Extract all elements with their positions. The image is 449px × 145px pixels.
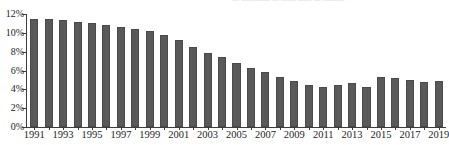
bar-slot: [99, 14, 113, 127]
y-axis-tick-label: 6%: [0, 66, 24, 76]
y-axis-tick: [22, 71, 26, 72]
x-axis-tick-label: 1999: [139, 129, 160, 141]
bar-slot: [143, 14, 157, 127]
bar-slot: [27, 14, 41, 127]
x-axis-tick-label: 1995: [82, 129, 103, 141]
x-axis-tick-label: 1997: [110, 129, 131, 141]
bar[interactable]: [88, 23, 96, 127]
bar[interactable]: [146, 31, 154, 127]
x-axis-tick-label: 2003: [197, 129, 218, 141]
bar[interactable]: [290, 81, 298, 127]
bar[interactable]: [175, 40, 183, 127]
y-axis-tick-label: 12%: [0, 9, 24, 19]
y-axis-tick-label: 8%: [0, 47, 24, 57]
bar-slot: [316, 14, 330, 127]
bar-slot: [417, 14, 431, 127]
bar-slot: [114, 14, 128, 127]
y-axis-tick: [22, 108, 26, 109]
bar-slot: [200, 14, 214, 127]
bar[interactable]: [30, 19, 38, 127]
bar-slot: [186, 14, 200, 127]
bar[interactable]: [377, 77, 385, 127]
cropped-top-caption-text: — ———— — —— —— — ———: [232, 0, 446, 4]
bar-slot: [157, 14, 171, 127]
bar[interactable]: [232, 63, 240, 127]
x-axis-tick-label: 2015: [370, 129, 391, 141]
bar[interactable]: [247, 68, 255, 127]
bar-slot: [432, 14, 446, 127]
bar[interactable]: [74, 22, 82, 127]
bar[interactable]: [348, 83, 356, 127]
x-axis-tick-label: 2007: [255, 129, 276, 141]
bar[interactable]: [102, 25, 110, 127]
x-axis-tick-label: 2019: [428, 129, 449, 141]
x-axis-tick-label: 2011: [313, 129, 334, 141]
bar-series: [27, 14, 446, 127]
y-axis-tick: [22, 89, 26, 90]
bar-slot: [403, 14, 417, 127]
x-axis-tick-label: 1993: [53, 129, 74, 141]
bar[interactable]: [59, 20, 67, 127]
y-axis-tick: [22, 52, 26, 53]
bar-slot: [345, 14, 359, 127]
bar-slot: [273, 14, 287, 127]
bar-slot: [171, 14, 185, 127]
x-axis-tick-label: 1991: [24, 129, 45, 141]
bar[interactable]: [420, 82, 428, 127]
y-axis-tick-label: 0%: [0, 122, 24, 132]
bar-slot: [56, 14, 70, 127]
x-axis-tick-label: 2005: [226, 129, 247, 141]
y-axis-tick: [22, 127, 26, 128]
x-axis-tick-label: 2001: [168, 129, 189, 141]
bar[interactable]: [435, 81, 443, 127]
bar-slot: [388, 14, 402, 127]
bar[interactable]: [305, 85, 313, 127]
y-axis-tick-label: 4%: [0, 84, 24, 94]
bar-slot: [330, 14, 344, 127]
bar-slot: [287, 14, 301, 127]
bar[interactable]: [160, 35, 168, 127]
y-axis-labels: 0%2%4%6%8%10%12%: [0, 14, 24, 127]
bar[interactable]: [406, 80, 414, 127]
bar-slot: [41, 14, 55, 127]
x-axis-labels: 1991199319951997199920012003200520072009…: [27, 129, 446, 144]
bar-slot: [128, 14, 142, 127]
y-axis-tick: [22, 14, 26, 15]
bar-slot: [70, 14, 84, 127]
bar-slot: [229, 14, 243, 127]
x-axis-tick-label: 2009: [284, 129, 305, 141]
bar[interactable]: [319, 87, 327, 127]
y-axis-tick: [22, 33, 26, 34]
x-axis-tick-label: 2013: [342, 129, 363, 141]
bar[interactable]: [261, 72, 269, 127]
y-axis-tick-label: 10%: [0, 28, 24, 38]
bar[interactable]: [204, 53, 212, 127]
bar[interactable]: [45, 19, 53, 127]
cropped-top-caption: — ———— — —— —— — ———: [232, 0, 446, 5]
bar-slot: [85, 14, 99, 127]
bar[interactable]: [362, 87, 370, 127]
bar-slot: [244, 14, 258, 127]
bar[interactable]: [131, 29, 139, 127]
bar[interactable]: [117, 27, 125, 127]
bar-slot: [302, 14, 316, 127]
bar-slot: [215, 14, 229, 127]
bar-slot: [359, 14, 373, 127]
bar[interactable]: [189, 47, 197, 127]
x-axis-tick-label: 2017: [399, 129, 420, 141]
bar[interactable]: [218, 57, 226, 127]
bar-slot: [374, 14, 388, 127]
bar-slot: [258, 14, 272, 127]
bar[interactable]: [334, 85, 342, 127]
bar[interactable]: [391, 78, 399, 127]
bar[interactable]: [276, 77, 284, 127]
y-axis-tick-label: 2%: [0, 103, 24, 113]
